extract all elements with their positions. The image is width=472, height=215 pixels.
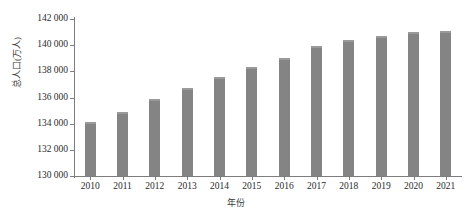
- bar: [408, 32, 419, 176]
- bar: [311, 46, 322, 176]
- bar: [117, 112, 128, 176]
- x-axis-tick: [446, 176, 447, 180]
- bar: [149, 99, 160, 176]
- y-axis-tick-label: 136 000: [8, 92, 68, 102]
- x-axis-tick: [187, 176, 188, 180]
- bar-highlight: [117, 112, 128, 114]
- bar: [246, 67, 257, 176]
- x-axis-tick: [414, 176, 415, 180]
- bar-highlight: [376, 36, 387, 38]
- bar: [343, 40, 354, 176]
- y-axis-tick-label: 130 000: [8, 170, 68, 180]
- bar-highlight: [85, 122, 96, 124]
- x-axis-tick-label: 2021: [424, 181, 468, 191]
- x-axis-tick: [155, 176, 156, 180]
- plot-area: [74, 19, 462, 176]
- x-axis-title: 年份: [0, 196, 472, 209]
- bar-highlight: [279, 58, 290, 60]
- bar: [182, 88, 193, 176]
- y-axis-tick: [70, 98, 74, 99]
- x-axis-tick: [349, 176, 350, 180]
- y-axis-tick: [70, 45, 74, 46]
- x-axis-tick: [317, 176, 318, 180]
- bar-highlight: [440, 31, 451, 33]
- x-axis-tick: [123, 176, 124, 180]
- bar-highlight: [343, 40, 354, 42]
- x-axis-tick: [90, 176, 91, 180]
- bar: [279, 58, 290, 176]
- x-axis-tick: [220, 176, 221, 180]
- bar-highlight: [149, 99, 160, 101]
- x-axis-line: [74, 176, 462, 177]
- y-axis-tick-label: 142 000: [8, 13, 68, 23]
- y-axis-tick: [70, 19, 74, 20]
- bar-highlight: [182, 88, 193, 90]
- x-axis-tick: [381, 176, 382, 180]
- bar: [85, 122, 96, 176]
- x-axis-tick: [252, 176, 253, 180]
- y-axis-tick: [70, 71, 74, 72]
- y-axis-tick-label: 132 000: [8, 144, 68, 154]
- bar-highlight: [214, 77, 225, 79]
- x-axis-tick: [284, 176, 285, 180]
- y-axis-tick-label: 140 000: [8, 39, 68, 49]
- bar: [376, 36, 387, 176]
- bar-highlight: [408, 32, 419, 34]
- y-axis-tick: [70, 176, 74, 177]
- y-axis-tick: [70, 124, 74, 125]
- population-bar-chart: 总人口(万人) 130 000132 000134 000136 000138 …: [0, 0, 472, 215]
- bar-highlight: [311, 46, 322, 48]
- y-axis-tick-label: 134 000: [8, 118, 68, 128]
- y-axis-tick-label: 138 000: [8, 65, 68, 75]
- bar: [214, 77, 225, 176]
- bar-highlight: [246, 67, 257, 69]
- y-axis-tick: [70, 150, 74, 151]
- bar: [440, 31, 451, 176]
